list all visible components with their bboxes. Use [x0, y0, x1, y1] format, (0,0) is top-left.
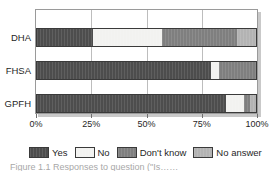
bar-segment: [250, 94, 257, 113]
bar-segment: [226, 94, 244, 113]
legend-item: Yes: [29, 147, 68, 158]
bar-segment: [36, 61, 211, 80]
x-tick-label-50%: 50%: [137, 119, 155, 129]
bar-segment: [162, 28, 237, 47]
plot-area: [35, 9, 258, 114]
x-tick-label-75%: 75%: [193, 119, 211, 129]
x-tick-mark: [257, 114, 258, 118]
x-tick-label-100%: 100%: [245, 119, 268, 129]
legend-swatch-icon: [29, 147, 49, 158]
legend-swatch-icon: [117, 147, 137, 158]
y-axis-label-gpfh: GPFH: [0, 98, 31, 109]
y-axis-label-fhsa: FHSA: [0, 65, 31, 76]
legend-label: No answer: [216, 147, 261, 158]
bar-segment: [219, 61, 257, 80]
bar-row: [36, 61, 257, 80]
legend-label: Yes: [52, 147, 68, 158]
bar-segment: [244, 94, 251, 113]
bar-segment: [93, 28, 162, 47]
legend-item: No: [75, 147, 110, 158]
figure-caption: Figure 1.1 Responses to question ("Is……: [10, 162, 268, 171]
bar-segment: [211, 61, 220, 80]
legend-item: No answer: [193, 147, 261, 158]
stacked-bar-chart: DHAFHSAGPFH 0%25%50%75%100% YesNoDon't k…: [0, 0, 274, 171]
bar-segment: [36, 28, 93, 47]
legend-swatch-icon: [193, 147, 213, 158]
bar-row: [36, 28, 257, 47]
bar-segment: [237, 28, 257, 47]
x-tick-label-0%: 0%: [29, 119, 42, 129]
bar-segment: [36, 94, 226, 113]
legend-label: Don't know: [140, 147, 187, 158]
legend-swatch-icon: [75, 147, 95, 158]
legend-label: No: [98, 147, 110, 158]
chart-legend: YesNoDon't knowNo answer: [29, 145, 261, 160]
x-tick-mark: [36, 114, 37, 118]
bar-row: [36, 94, 257, 113]
legend-item: Don't know: [117, 147, 187, 158]
x-tick-label-25%: 25%: [82, 119, 100, 129]
x-tick-mark: [147, 114, 148, 118]
x-tick-mark: [202, 114, 203, 118]
y-axis-label-dha: DHA: [0, 32, 31, 43]
x-tick-mark: [91, 114, 92, 118]
